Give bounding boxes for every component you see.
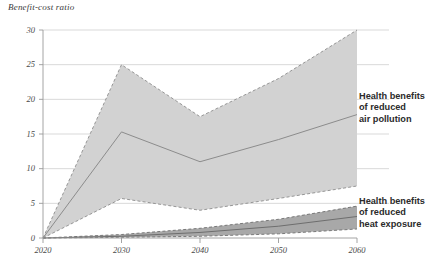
legend-air-pollution: Health benefits of reduced air pollution: [359, 91, 425, 125]
legend-air-line-3: air pollution: [359, 114, 425, 125]
legend-heat-line-3: heat exposure: [359, 219, 425, 230]
legend-heat-exposure: Health benefits of reduced heat exposure: [359, 196, 425, 230]
ytick-label-15: 15: [13, 129, 35, 139]
legend-air-line-1: Health benefits: [359, 91, 425, 102]
ytick-label-25: 25: [13, 59, 35, 69]
ytick-label-20: 20: [13, 94, 35, 104]
benefit-cost-ratio-chart: Benefit-cost ratio 302520151050 20202030…: [0, 0, 446, 268]
xtick-label-2060: 2060: [337, 245, 377, 255]
ytick-label-10: 10: [13, 163, 35, 173]
legend-air-line-2: of reduced: [359, 102, 425, 113]
ytick-label-5: 5: [13, 198, 35, 208]
legend-heat-line-1: Health benefits: [359, 196, 425, 207]
xtick-label-2050: 2050: [259, 245, 299, 255]
xtick-label-2040: 2040: [180, 245, 220, 255]
y-axis-title: Benefit-cost ratio: [8, 2, 74, 12]
legend-heat-line-2: of reduced: [359, 207, 425, 218]
xtick-label-2020: 2020: [23, 245, 63, 255]
xtick-label-2030: 2030: [102, 245, 142, 255]
ytick-label-30: 30: [13, 25, 35, 35]
ytick-label-0: 0: [13, 233, 35, 243]
